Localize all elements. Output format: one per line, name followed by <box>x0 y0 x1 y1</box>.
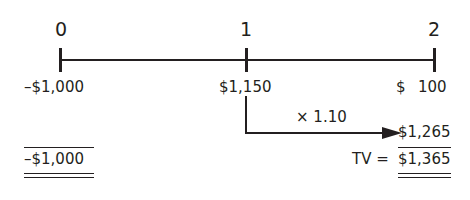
left-total-value: –$1,000 <box>24 150 84 168</box>
tick-1 <box>245 48 248 72</box>
left-double-rule-bottom <box>24 177 94 178</box>
period-label-2: 2 <box>428 18 440 40</box>
cash-flow-0: –$1,000 <box>24 78 84 96</box>
growth-factor-label: × 1.10 <box>296 108 347 126</box>
tick-2 <box>433 48 436 72</box>
tick-0 <box>59 48 62 72</box>
tv-double-rule-bottom <box>398 177 451 178</box>
left-double-rule-top <box>24 173 94 174</box>
left-sum-rule <box>24 147 94 148</box>
cash-flow-2-symbol: $ <box>396 78 406 96</box>
tv-double-rule-top <box>398 173 451 174</box>
arrow-vertical-segment <box>245 96 247 134</box>
arrow-horizontal-segment <box>245 132 385 134</box>
compounded-value: $1,265 <box>398 123 451 141</box>
period-label-0: 0 <box>55 18 67 40</box>
sum-rule <box>398 147 451 148</box>
cash-flow-1: $1,150 <box>219 78 272 96</box>
tv-label: TV = <box>352 150 389 168</box>
period-label-1: 1 <box>240 18 252 40</box>
terminal-value: $1,365 <box>398 150 451 168</box>
cash-flow-2-amount: 100 <box>418 78 447 96</box>
